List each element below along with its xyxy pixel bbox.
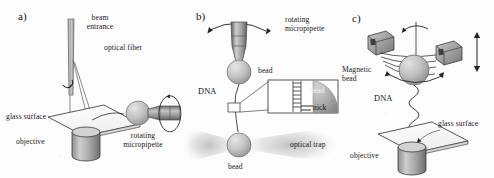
objective-cylinder xyxy=(72,127,100,161)
label-magnetic-bead: Magnetic bead xyxy=(342,66,371,83)
rotating-micropipette-tube xyxy=(148,106,180,120)
axis-rotation-arrow xyxy=(402,26,428,33)
label-rotating-micropipette: rotating micropipette xyxy=(112,132,174,149)
magnet-right xyxy=(436,41,462,65)
label-dna: DNA xyxy=(374,95,392,104)
label-bead-top: bead xyxy=(258,67,273,76)
bead-sphere xyxy=(126,101,150,125)
label-optical-trap: optical trap xyxy=(290,141,326,150)
dna-nick-inset xyxy=(268,80,338,113)
bead-bottom-sphere xyxy=(227,133,251,157)
panel-a-optical-fiber-trap: a) xyxy=(0,0,180,178)
nick-region-box xyxy=(228,103,240,112)
label-nick: nick xyxy=(313,104,326,113)
label-rotating-micropipette: rotating micropipette xyxy=(285,16,325,33)
label-beam-entrance: beam entrance xyxy=(78,14,122,31)
magnet-left xyxy=(368,31,394,55)
figure-canvas: a) xyxy=(0,0,494,178)
vertical-translation-arrow xyxy=(474,32,480,72)
bead-top-sphere xyxy=(227,60,251,84)
rotating-micropipette-tube xyxy=(231,22,247,62)
panel-c-magnetic-tweezers: c) xyxy=(340,0,494,178)
objective-cylinder xyxy=(398,142,426,175)
label-objective: objective xyxy=(350,152,379,161)
label-objective: objective xyxy=(16,138,45,147)
label-inset-bead: bead xyxy=(310,87,325,96)
panel-b-optical-trap: b) xyxy=(180,0,340,178)
label-glass-surface: glass surface xyxy=(6,113,46,122)
inset-leader-lines xyxy=(240,82,268,112)
label-bead-bottom: bead xyxy=(228,163,243,172)
label-dna: DNA xyxy=(198,88,216,97)
label-glass-surface: glass surface xyxy=(438,120,478,129)
label-optical-fiber: optical fiber xyxy=(104,44,142,53)
